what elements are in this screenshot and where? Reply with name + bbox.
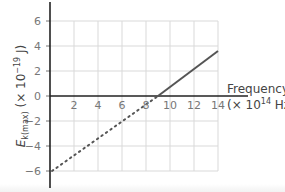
- svg-text:12: 12: [187, 99, 201, 112]
- svg-text:Ek(max) (× 10−19 J): Ek(max) (× 10−19 J): [13, 45, 30, 147]
- svg-text:14: 14: [211, 99, 225, 112]
- svg-text:8: 8: [143, 99, 150, 112]
- svg-text:6: 6: [119, 99, 126, 112]
- measured-line: [158, 51, 218, 96]
- svg-text:−6: −6: [25, 165, 41, 178]
- x-tick-labels: 2 4 6 8 10 12 14: [71, 99, 226, 112]
- svg-text:10: 10: [163, 99, 177, 112]
- svg-text:4: 4: [95, 99, 102, 112]
- x-axis-title: Frequency (× 1014 Hz): [227, 82, 285, 112]
- y-axis-title: Ek(max) (× 10−19 J): [13, 45, 30, 147]
- svg-text:(× 1014 Hz): (× 1014 Hz): [227, 97, 285, 112]
- svg-text:6: 6: [34, 15, 41, 28]
- chart: 6 4 2 0 −2 −4 −6 2 4 6 8 10 12 14 Freque…: [0, 0, 285, 192]
- svg-text:2: 2: [71, 99, 78, 112]
- svg-text:0: 0: [34, 90, 41, 103]
- svg-text:Frequency: Frequency: [227, 82, 285, 96]
- svg-text:2: 2: [34, 65, 41, 78]
- svg-text:4: 4: [34, 40, 41, 53]
